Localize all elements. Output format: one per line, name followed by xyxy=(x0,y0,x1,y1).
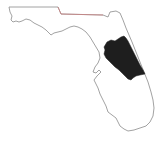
map-svg xyxy=(0,0,163,144)
florida-map xyxy=(0,0,163,144)
northern-border xyxy=(58,7,103,15)
